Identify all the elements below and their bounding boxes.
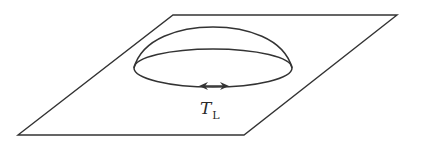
tension-label: TL [200,98,219,118]
dome-base-ellipse [134,49,292,87]
label-main: T [200,98,211,118]
label-subscript: L [212,109,219,122]
dome-cap [134,27,292,68]
double-arrow-icon [199,82,229,90]
